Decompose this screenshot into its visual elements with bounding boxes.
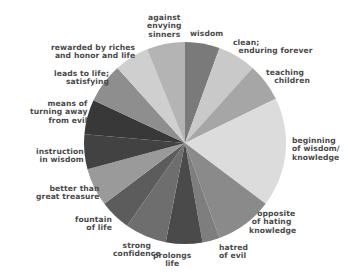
slice-label: instruction in wisdom	[36, 148, 84, 165]
slice-label: beginning of wisdom/ knowledge	[292, 137, 340, 162]
slice-label: better than great treasure	[36, 185, 100, 202]
slice-label: rewarded by riches and honor and life	[51, 44, 135, 61]
slice-label: wisdom	[190, 30, 223, 38]
slice-label: hatred of evil	[219, 244, 248, 261]
slice-label: against envying sinners	[147, 14, 182, 39]
slice-label: leads to life; satisfying	[54, 70, 109, 87]
slice-label: fountain of life	[75, 216, 112, 233]
slice-label: means of turning away from evil	[30, 100, 87, 125]
slice-label: opposite of hating knowledge	[249, 210, 296, 235]
slice-label: strong confidence	[113, 242, 161, 259]
slice-label: clean; enduring forever	[233, 39, 313, 56]
slice-label: teaching children	[266, 69, 310, 86]
